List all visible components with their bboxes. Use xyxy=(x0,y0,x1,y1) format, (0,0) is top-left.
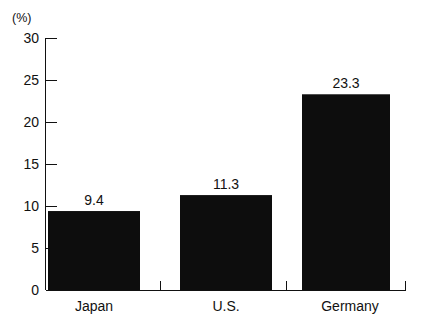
bar-value-label-us: 11.3 xyxy=(213,176,239,192)
y-tick-label-20: 20 xyxy=(23,114,39,130)
y-tick-label-30: 30 xyxy=(23,30,39,46)
y-tick-label-0: 0 xyxy=(31,282,39,298)
y-tick-label-15: 15 xyxy=(23,156,39,172)
chart-canvas: (%) 30 25 20 15 10 5 0 9.4 11.3 23.3 Ja xyxy=(0,0,422,329)
y-axis-unit-label: (%) xyxy=(12,11,31,25)
x-category-label-japan: Japan xyxy=(75,298,113,314)
x-category-label-germany: Germany xyxy=(321,298,379,314)
bar-japan xyxy=(48,211,140,290)
bar-value-label-germany: 23.3 xyxy=(332,75,359,91)
bar-chart: (%) 30 25 20 15 10 5 0 9.4 11.3 23.3 Ja xyxy=(0,0,422,329)
x-category-label-us: U.S. xyxy=(212,298,239,314)
bar-value-label-japan: 9.4 xyxy=(84,192,104,208)
bar-germany xyxy=(302,94,390,290)
y-tick-label-5: 5 xyxy=(31,240,39,256)
y-tick-label-10: 10 xyxy=(23,198,39,214)
y-tick-label-25: 25 xyxy=(23,72,39,88)
bar-us xyxy=(180,195,272,290)
